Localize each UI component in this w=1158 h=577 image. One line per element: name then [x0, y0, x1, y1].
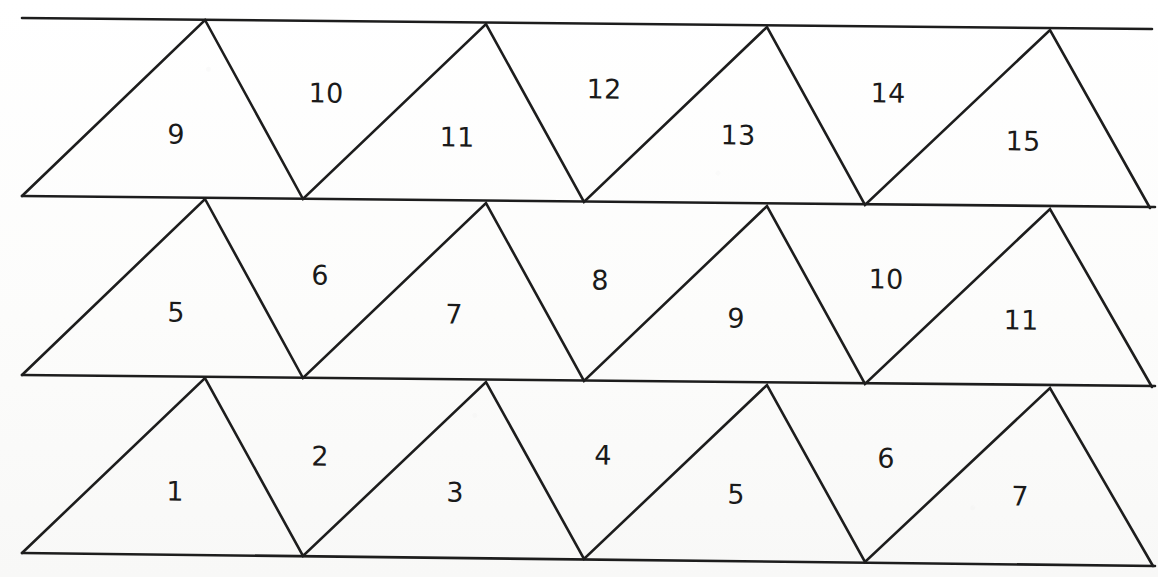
bottom-row-zigzag: [22, 378, 1153, 566]
triangle-label-top-7: 15: [1005, 127, 1040, 154]
triangle-label-middle-4: 8: [591, 266, 609, 293]
triangle-label-middle-2: 6: [311, 261, 329, 288]
triangle-label-middle-1: 5: [167, 298, 185, 325]
triangle-label-middle-6: 10: [868, 265, 903, 292]
top-row-zigzag: [22, 20, 1150, 208]
triangle-label-top-1: 9: [167, 120, 185, 147]
triangle-label-bottom-6: 6: [877, 444, 895, 471]
middle-row-zigzag: [22, 199, 1152, 387]
top-row-group: [22, 18, 1155, 208]
triangle-label-bottom-4: 4: [594, 441, 612, 468]
top-row-upper-baseline: [22, 18, 1152, 29]
triangle-label-top-2: 10: [308, 79, 343, 106]
triangle-label-bottom-7: 7: [1011, 482, 1029, 509]
triangle-label-bottom-5: 5: [727, 480, 745, 507]
triangle-label-top-6: 14: [870, 79, 905, 106]
triangle-label-bottom-2: 2: [311, 442, 329, 469]
triangle-label-top-5: 13: [720, 121, 755, 148]
triangle-label-bottom-1: 1: [166, 477, 184, 504]
triangle-label-top-4: 12: [586, 75, 621, 102]
triangle-label-middle-3: 7: [445, 300, 463, 327]
bottom-row-group: [22, 378, 1155, 566]
middle-row-group: [22, 199, 1155, 387]
triangle-label-middle-5: 9: [727, 304, 745, 331]
triangle-label-middle-7: 11: [1003, 306, 1038, 333]
triangle-tessellation-figure: 9 10 11 12 13 14 15 5 6 7 8 9 10 11 1 2 …: [0, 0, 1158, 577]
triangle-label-top-3: 11: [439, 123, 474, 150]
triangle-label-bottom-3: 3: [446, 478, 464, 505]
